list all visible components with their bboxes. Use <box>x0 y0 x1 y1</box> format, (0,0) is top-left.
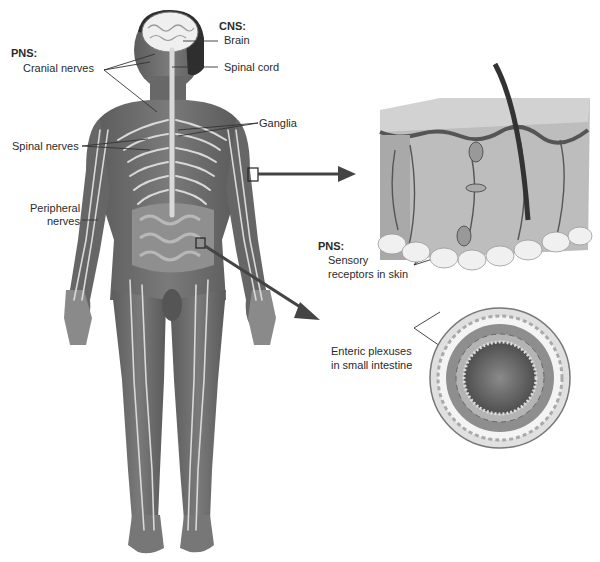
label-ganglia: Ganglia <box>259 117 297 130</box>
label-sensory-2: receptors in skin <box>328 268 408 281</box>
label-enteric-1: Enteric plexuses <box>331 345 412 358</box>
skin-cross-section <box>378 64 592 270</box>
label-peripheral-nerves-1: Peripheral <box>30 202 80 215</box>
label-enteric-2: in small intestine <box>331 359 412 372</box>
label-sensory-1: Sensory <box>328 254 368 267</box>
small-intestine-cross-section <box>430 308 570 448</box>
brain <box>142 12 198 52</box>
label-peripheral-nerves-2: nerves <box>30 215 80 228</box>
pns-header-body: PNS: <box>11 47 37 60</box>
label-brain: Brain <box>224 34 250 47</box>
pns-header-skin: PNS: <box>318 240 344 253</box>
nervous-system-illustration <box>0 0 600 562</box>
label-cranial-nerves: Cranial nerves <box>23 62 94 75</box>
label-spinal-nerves: Spinal nerves <box>12 140 79 153</box>
label-spinal-cord: Spinal cord <box>224 61 279 74</box>
cns-header: CNS: <box>219 20 246 33</box>
